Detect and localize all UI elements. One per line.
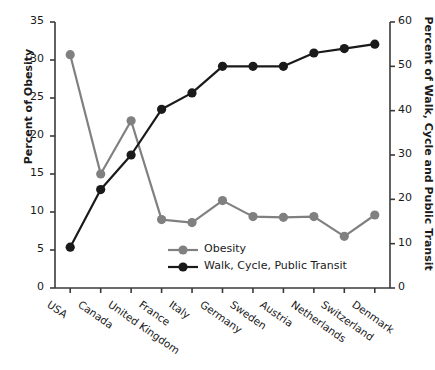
data-point xyxy=(218,196,227,205)
data-point xyxy=(96,185,105,194)
right-tick-0: 0 xyxy=(398,280,420,293)
legend-swatch-walk-cycle-public-transit xyxy=(168,262,198,271)
right-tick-20: 20 xyxy=(398,191,420,204)
data-point xyxy=(370,40,379,49)
right-tick-30: 30 xyxy=(398,147,420,160)
data-point xyxy=(157,215,166,224)
data-point xyxy=(248,212,257,221)
right-axis-title: Percent of Walk, Cycle and Public Transi… xyxy=(422,17,435,237)
data-point xyxy=(127,150,136,159)
data-point xyxy=(279,62,288,71)
legend-swatch-obesity xyxy=(168,245,198,254)
left-tick-0: 0 xyxy=(22,280,44,293)
left-tick-10: 10 xyxy=(22,204,44,217)
data-point xyxy=(340,232,349,241)
right-tick-60: 60 xyxy=(398,14,420,27)
left-axis-title: Percent of Obesity xyxy=(22,27,35,187)
legend-marks xyxy=(168,245,198,271)
right-tick-10: 10 xyxy=(398,236,420,249)
left-tick-30: 30 xyxy=(22,52,44,65)
left-tick-15: 15 xyxy=(22,166,44,179)
data-point xyxy=(248,62,257,71)
data-point xyxy=(127,116,136,125)
data-point xyxy=(66,243,75,252)
data-point xyxy=(309,48,318,57)
data-point xyxy=(157,105,166,114)
data-point xyxy=(218,62,227,71)
data-point xyxy=(309,212,318,221)
legend-label: Obesity xyxy=(204,242,246,255)
left-tick-20: 20 xyxy=(22,128,44,141)
data-point xyxy=(187,218,196,227)
data-point xyxy=(187,88,196,97)
data-point xyxy=(279,213,288,222)
legend-label: Walk, Cycle, Public Transit xyxy=(204,259,347,272)
series-obesity xyxy=(66,50,380,241)
data-point xyxy=(370,210,379,219)
right-tick-50: 50 xyxy=(398,58,420,71)
left-tick-35: 35 xyxy=(22,14,44,27)
data-point xyxy=(66,50,75,59)
series-layer xyxy=(66,40,380,252)
right-tick-40: 40 xyxy=(398,103,420,116)
series-walk-cycle-public-transit xyxy=(66,40,380,252)
data-point xyxy=(340,44,349,53)
left-tick-25: 25 xyxy=(22,90,44,103)
left-tick-5: 5 xyxy=(22,242,44,255)
data-point xyxy=(96,169,105,178)
